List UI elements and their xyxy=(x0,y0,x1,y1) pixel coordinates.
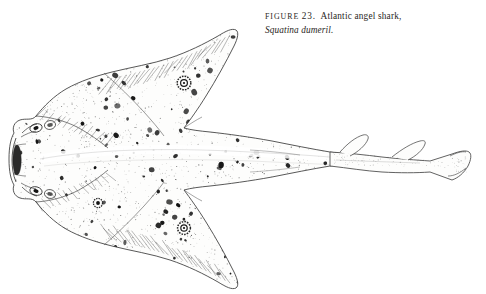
ocellus-center-lower xyxy=(183,227,185,229)
dorsal-fin-second xyxy=(392,141,425,160)
shark-illustration-svg xyxy=(0,0,486,294)
figure-number: 23. xyxy=(302,11,316,21)
figure-label: FIGURE xyxy=(265,12,299,21)
figure-scientific-name: Squatina dumeril. xyxy=(265,25,333,35)
ocellus-center-upper xyxy=(183,82,185,84)
tail-group xyxy=(330,135,475,185)
figure-common-name: Atlantic angel shark, xyxy=(321,11,402,21)
dorsal-fin-first xyxy=(340,135,368,156)
mouth xyxy=(13,145,21,175)
caption-line-1: FIGURE 23. Atlantic angel shark, xyxy=(265,10,465,24)
caption-line-2: Squatina dumeril. xyxy=(265,24,465,38)
shark-illustration xyxy=(0,0,486,294)
figure-page: FIGURE 23. Atlantic angel shark, Squatin… xyxy=(0,0,486,294)
figure-caption: FIGURE 23. Atlantic angel shark, Squatin… xyxy=(265,10,465,37)
ocellus-center-pelvic xyxy=(96,201,100,205)
